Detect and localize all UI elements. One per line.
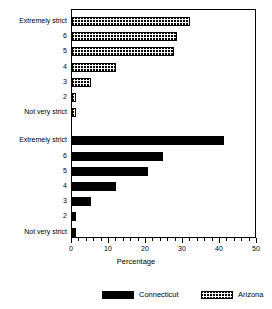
bar — [72, 182, 116, 191]
x-tick-minor — [93, 238, 94, 241]
x-tick-minor — [101, 238, 102, 241]
x-tick-major — [219, 238, 220, 243]
x-tick-minor — [138, 238, 139, 241]
chart-legend: Connecticut Arizona — [0, 289, 272, 303]
x-axis-ticks — [71, 238, 256, 243]
x-tick-major — [256, 238, 257, 243]
bar-row — [72, 78, 257, 87]
x-tick-minor — [115, 238, 116, 241]
category-label: 4 — [0, 181, 71, 190]
x-tick-minor — [160, 238, 161, 241]
x-tick-minor — [197, 238, 198, 241]
bar-row — [72, 47, 257, 56]
x-tick-major — [145, 238, 146, 243]
bar — [72, 136, 224, 145]
legend-item-arizona: Arizona — [201, 289, 263, 301]
category-label: 2 — [0, 211, 71, 220]
category-label: 3 — [0, 196, 71, 205]
bar — [72, 78, 91, 87]
bar-row — [72, 93, 257, 102]
bar — [72, 197, 91, 206]
x-tick-minor — [249, 238, 250, 241]
category-label: 5 — [0, 46, 71, 55]
x-tick-minor — [123, 238, 124, 241]
category-label: 5 — [0, 166, 71, 175]
category-label: 2 — [0, 92, 71, 101]
x-tick-major — [182, 238, 183, 243]
legend-label-connecticut: Connecticut — [139, 290, 179, 300]
bar — [72, 228, 76, 237]
x-tick-minor — [86, 238, 87, 241]
plot-area — [71, 9, 256, 238]
legend-swatch-connecticut — [102, 291, 134, 299]
category-label: 4 — [0, 62, 71, 71]
bar — [72, 17, 190, 26]
bar-row — [72, 228, 257, 237]
legend-swatch-arizona — [201, 291, 233, 299]
x-tick-minor — [78, 238, 79, 241]
x-tick-minor — [152, 238, 153, 241]
category-label: 3 — [0, 77, 71, 86]
bar-row — [72, 17, 257, 26]
bar-chart: Extremely strict65432Not very strictExtr… — [0, 0, 272, 309]
x-tick-major — [71, 238, 72, 243]
x-tick-label: 0 — [69, 244, 73, 253]
bar — [72, 32, 177, 41]
x-tick-minor — [189, 238, 190, 241]
category-label: 6 — [0, 31, 71, 40]
x-tick-label: 30 — [178, 244, 186, 253]
bar-row — [72, 182, 257, 191]
bar — [72, 47, 174, 56]
x-tick-minor — [212, 238, 213, 241]
bar-row — [72, 197, 257, 206]
category-label: 6 — [0, 151, 71, 160]
bar-row — [72, 32, 257, 41]
x-tick-minor — [226, 238, 227, 241]
bar-row — [72, 108, 257, 117]
x-tick-minor — [241, 238, 242, 241]
bar — [72, 108, 76, 117]
x-axis-tick-labels: 01020304050 — [0, 244, 272, 254]
legend-label-arizona: Arizona — [238, 290, 263, 300]
x-tick-label: 10 — [104, 244, 112, 253]
category-label: Extremely strict — [0, 16, 71, 25]
category-label: Extremely strict — [0, 135, 71, 144]
bar — [72, 167, 148, 176]
bar-row — [72, 212, 257, 221]
bar — [72, 93, 76, 102]
bar — [72, 152, 163, 161]
bar-row — [72, 136, 257, 145]
x-tick-minor — [167, 238, 168, 241]
bar-row — [72, 167, 257, 176]
x-tick-minor — [175, 238, 176, 241]
x-tick-label: 20 — [141, 244, 149, 253]
x-tick-minor — [234, 238, 235, 241]
x-tick-label: 40 — [215, 244, 223, 253]
x-tick-major — [108, 238, 109, 243]
legend-item-connecticut: Connecticut — [102, 289, 179, 301]
category-label: Not very strict — [0, 227, 71, 236]
bar — [72, 63, 116, 72]
x-tick-label: 50 — [252, 244, 260, 253]
bar-row — [72, 152, 257, 161]
bar-row — [72, 63, 257, 72]
bar — [72, 212, 76, 221]
x-axis-title: Percentage — [0, 257, 272, 267]
category-label: Not very strict — [0, 107, 71, 116]
x-tick-minor — [130, 238, 131, 241]
x-tick-minor — [204, 238, 205, 241]
